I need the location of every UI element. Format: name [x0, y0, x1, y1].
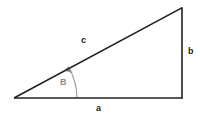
angle-b-label: B: [60, 78, 67, 87]
side-b-label: b: [188, 47, 194, 56]
side-a-label: a: [96, 104, 101, 113]
triangle-figure: [0, 0, 200, 118]
side-c-label: c: [81, 36, 86, 45]
side-c-line: [14, 8, 182, 98]
triangle-diagram: c b a B: [0, 0, 200, 118]
